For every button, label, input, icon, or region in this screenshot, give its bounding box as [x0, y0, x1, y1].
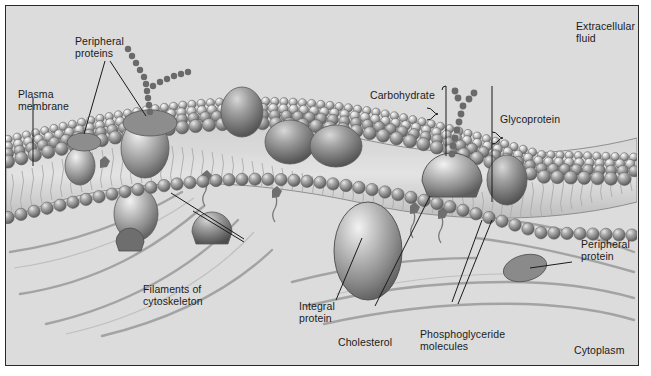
label-phosphoglyceride-molecules: Phosphoglyceride molecules [420, 328, 505, 352]
label-peripheral-proteins: Peripheral proteins [75, 35, 124, 59]
label-peripheral-protein: Peripheral protein [581, 238, 630, 262]
diagram-frame: Peripheral proteins Plasma membrane Carb… [5, 5, 639, 366]
label-plasma-membrane: Plasma membrane [18, 88, 69, 112]
label-cytoplasm: Cytoplasm [574, 344, 625, 356]
label-carbohydrate: Carbohydrate [370, 89, 435, 101]
figure-canvas: Peripheral proteins Plasma membrane Carb… [0, 0, 651, 376]
label-extracellular-fluid: Extracellular fluid [576, 20, 635, 44]
label-glycoprotein: Glycoprotein [500, 113, 560, 125]
label-filaments-of-cytoskeleton: Filaments of cytoskeleton [143, 283, 203, 307]
label-cholesterol: Cholesterol [338, 336, 392, 348]
label-integral-protein: Integral protein [299, 300, 335, 324]
